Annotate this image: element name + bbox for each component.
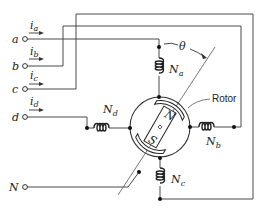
terminal-c-connector-icon[interactable]	[23, 87, 28, 92]
winding-na-label: Na	[168, 63, 184, 78]
terminal-a[interactable]: a ia	[12, 19, 44, 46]
theta-label: θ	[179, 40, 186, 53]
rotor	[133, 96, 187, 158]
terminal-n-label: N	[8, 181, 19, 194]
theta-angle-indicator: θ	[164, 40, 207, 59]
winding-na: Na	[155, 45, 183, 99]
current-arrow-icon	[39, 31, 44, 35]
terminal-d-label: d	[12, 111, 19, 124]
winding-nd: Nd	[85, 103, 132, 131]
terminal-d-connector-icon[interactable]	[23, 115, 28, 120]
terminal-a-label: a	[12, 33, 19, 46]
terminal-a-connector-icon[interactable]	[23, 37, 28, 42]
terminal-c-label: c	[12, 83, 18, 96]
terminal-neutral[interactable]: N	[8, 181, 27, 194]
winding-nc-label: Nc	[170, 173, 186, 188]
terminal-b-connector-icon[interactable]	[23, 64, 28, 69]
motor-winding-diagram: θ N S Rotor Na Nb	[0, 0, 264, 215]
current-ic-label: ic	[30, 69, 39, 83]
current-ib-label: ib	[30, 45, 39, 59]
wire-a	[27, 39, 159, 47]
current-arrow-icon	[39, 82, 44, 86]
rotor-callout: Rotor	[188, 93, 237, 108]
wire-d	[27, 117, 87, 128]
terminal-n-connector-icon[interactable]	[23, 185, 28, 190]
current-arrow-icon	[39, 57, 44, 61]
neutral-junction-dot	[137, 170, 141, 174]
terminal-d[interactable]: d id	[12, 95, 44, 124]
current-arrow-icon	[39, 108, 44, 112]
winding-nc: Nc	[156, 156, 185, 201]
winding-nb: Nb	[188, 123, 236, 151]
current-id-label: id	[30, 95, 39, 109]
rotor-label: Rotor	[212, 93, 237, 104]
winding-nd-label: Nd	[102, 103, 118, 118]
terminal-c[interactable]: c ic	[12, 69, 44, 96]
terminal-b-label: b	[12, 60, 19, 73]
wire-neutral	[27, 172, 139, 187]
winding-nb-label: Nb	[205, 135, 221, 150]
terminal-b[interactable]: b ib	[12, 45, 44, 73]
current-ia-label: ia	[30, 19, 39, 33]
